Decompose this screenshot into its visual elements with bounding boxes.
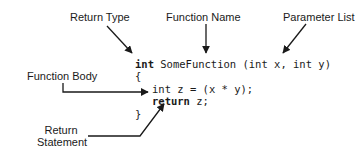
function-body-arrow bbox=[63, 83, 148, 92]
return-statement-arrow bbox=[88, 104, 164, 136]
parameter-list-arrow bbox=[283, 24, 306, 53]
return-type-arrow bbox=[107, 26, 132, 53]
